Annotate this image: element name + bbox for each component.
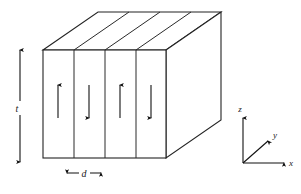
coordinate-axes: x y z bbox=[237, 104, 293, 168]
z-axis-label: z bbox=[237, 104, 242, 114]
magnetic-domain-figure: t d x y z bbox=[0, 0, 301, 194]
y-axis-line bbox=[243, 141, 268, 163]
thickness-dimension: t bbox=[15, 50, 26, 162]
y-axis-label: y bbox=[272, 130, 277, 140]
x-axis-label: x bbox=[288, 158, 293, 168]
figure-canvas: t d x y z bbox=[0, 0, 301, 194]
width-dimension: d bbox=[67, 165, 101, 179]
thickness-label: t bbox=[16, 103, 19, 114]
